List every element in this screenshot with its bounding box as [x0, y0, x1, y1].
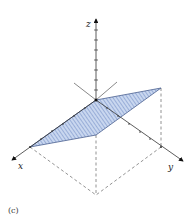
y-axis — [96, 100, 183, 161]
3d-plane-diagram: z x y (c) — [0, 0, 196, 223]
shaded-plane — [30, 88, 161, 147]
x-axis-label: x — [18, 161, 23, 171]
origin-point — [95, 99, 98, 102]
z-axis-label: z — [85, 19, 91, 29]
y-axis-label: y — [167, 162, 174, 172]
figure-caption: (c) — [8, 206, 19, 215]
dashed-x-to-base — [30, 147, 96, 195]
dashed-y-to-base — [96, 147, 161, 195]
negative-y-axis — [74, 83, 96, 100]
